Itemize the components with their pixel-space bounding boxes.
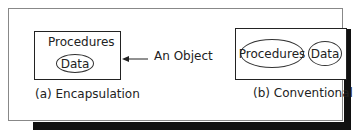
- data-ellipse: Data: [308, 41, 342, 66]
- conventional-caption: (b) Conventional: [253, 86, 353, 100]
- data-label: Data: [61, 57, 90, 71]
- encapsulation-box: Procedures Data: [34, 31, 121, 80]
- data-label: Data: [311, 47, 340, 61]
- procedures-ellipse: Procedures: [240, 39, 304, 68]
- conventional-box: Procedures Data: [235, 28, 347, 80]
- figure-frame: Procedures Data (a) Encapsulation An Obj…: [8, 8, 343, 121]
- procedures-label: Procedures: [48, 35, 115, 49]
- encapsulation-caption: (a) Encapsulation: [35, 87, 140, 101]
- arrow-left-icon: [122, 55, 148, 63]
- object-label: An Object: [154, 49, 213, 63]
- drop-shadow-bottom: [33, 122, 351, 130]
- data-ellipse: Data: [56, 54, 94, 73]
- procedures-label: Procedures: [239, 47, 306, 61]
